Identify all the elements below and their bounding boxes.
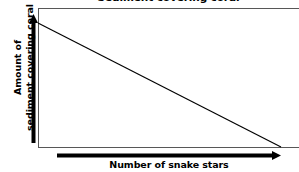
- plot-graphics: [0, 0, 299, 172]
- trend-line: [38, 23, 281, 147]
- x-axis-label: Number of snake stars: [57, 159, 281, 170]
- y-axis-label-line-1: Amount of: [12, 0, 24, 138]
- y-axis-label-line-2: sediment covering coral: [23, 0, 35, 138]
- y-axis-label: Amount of sediment covering coral: [12, 0, 35, 138]
- chart-figure: Sediment covering coral Amount of sedime…: [0, 0, 299, 172]
